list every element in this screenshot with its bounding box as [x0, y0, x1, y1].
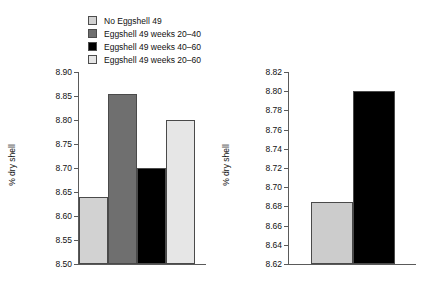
legend-item-label: No Eggshell 49 [104, 16, 162, 26]
y-axis-tick-label: 8.82 [265, 68, 282, 77]
y-axis-tick [284, 264, 288, 265]
y-axis-tick [284, 206, 288, 207]
y-axis-tick-label: 8.70 [265, 183, 282, 192]
y-axis-title-right: % dry shell [221, 135, 231, 195]
bar-series-right [289, 72, 416, 264]
plot-area-left: 8.908.858.808.758.708.658.608.558.50 [78, 72, 206, 265]
bar [137, 168, 166, 264]
y-axis-tick [284, 168, 288, 169]
y-axis-tick [284, 245, 288, 246]
y-axis-tick-label: 8.66 [265, 221, 282, 230]
bar [79, 197, 108, 264]
legend-swatch-icon [88, 42, 97, 51]
y-axis-tick-label: 8.64 [265, 241, 282, 250]
y-axis-tick [74, 72, 78, 73]
y-axis-tick [74, 168, 78, 169]
y-axis-tick [74, 240, 78, 241]
legend-item: No Eggshell 49 [88, 15, 201, 26]
y-axis-tick-label: 8.65 [55, 188, 72, 197]
x-axis-line-right [288, 264, 416, 265]
legend-swatch-icon [88, 55, 97, 64]
y-axis-tick [74, 192, 78, 193]
y-axis-tick [284, 149, 288, 150]
y-axis-tick [74, 216, 78, 217]
y-axis-tick-label: 8.74 [265, 145, 282, 154]
y-axis-tick-label: 8.85 [55, 92, 72, 101]
y-axis-tick [74, 120, 78, 121]
bar [353, 91, 395, 264]
y-axis-tick-label: 8.68 [265, 202, 282, 211]
legend-item: Eggshell 49 weeks 20–40 [88, 28, 201, 39]
y-axis-tick-label: 8.75 [55, 140, 72, 149]
legend-item: Eggshell 49 weeks 40–60 [88, 41, 201, 52]
y-axis-tick [284, 187, 288, 188]
chart-panel-right: 3.45 Ca 4.0% Ca % dry shell 8.828.808.78… [218, 0, 434, 293]
y-axis-tick-label: 8.70 [55, 164, 72, 173]
y-axis-tick [284, 130, 288, 131]
figure-root: No Eggshell 49 Eggshell 49 weeks 20–40 E… [0, 0, 434, 293]
bar [108, 94, 137, 264]
legend-item: Eggshell 49 weeks 20–60 [88, 54, 201, 65]
y-axis-tick-label: 8.60 [55, 212, 72, 221]
y-axis-tick [284, 72, 288, 73]
legend-item-label: Eggshell 49 weeks 20–60 [104, 55, 201, 65]
y-axis-tick-label: 8.50 [55, 260, 72, 269]
bar-series-left [79, 72, 206, 264]
plot-area-right: 8.828.808.788.768.748.728.708.688.668.64… [288, 72, 416, 265]
y-axis-tick [284, 226, 288, 227]
legend-swatch-icon [88, 16, 97, 25]
chart-panel-left: No Eggshell 49 Eggshell 49 weeks 20–40 E… [0, 0, 218, 293]
legend-swatch-icon [88, 29, 97, 38]
y-axis-tick-label: 8.72 [265, 164, 282, 173]
y-axis-tick-label: 8.62 [265, 260, 282, 269]
y-axis-title-left: % dry shell [7, 135, 17, 195]
y-axis-tick [74, 144, 78, 145]
bar [311, 202, 353, 264]
y-axis-tick-label: 8.55 [55, 236, 72, 245]
legend-left: No Eggshell 49 Eggshell 49 weeks 20–40 E… [88, 15, 201, 65]
y-axis-tick [74, 96, 78, 97]
legend-item-label: Eggshell 49 weeks 20–40 [104, 29, 201, 39]
y-axis-tick-label: 8.80 [265, 87, 282, 96]
y-axis-tick-label: 8.90 [55, 68, 72, 77]
legend-item-label: Eggshell 49 weeks 40–60 [104, 42, 201, 52]
y-axis-tick [284, 91, 288, 92]
bar [166, 120, 195, 264]
y-axis-tick-label: 8.76 [265, 125, 282, 134]
y-axis-tick [74, 264, 78, 265]
y-axis-tick-label: 8.78 [265, 106, 282, 115]
y-axis-tick [284, 110, 288, 111]
y-axis-tick-label: 8.80 [55, 116, 72, 125]
x-axis-line-left [78, 264, 206, 265]
